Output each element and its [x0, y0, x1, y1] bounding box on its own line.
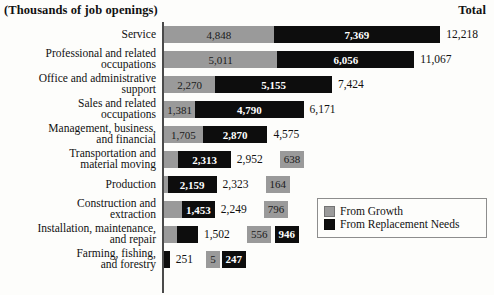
- bar-segment-growth: 1,381: [164, 101, 195, 118]
- category-label: Construction and extraction: [0, 198, 156, 222]
- bar-value-growth: 4,848: [206, 29, 231, 41]
- detached-replacement-value: 247: [222, 251, 247, 268]
- stacked-bar: 1642,159: [164, 176, 217, 193]
- row-total-value: 2,323: [223, 176, 249, 193]
- bar-value-growth: 1,381: [167, 104, 192, 116]
- detached-growth-value: 638: [280, 151, 305, 168]
- bar-row: Office and administrative support2,2705,…: [0, 72, 494, 97]
- bar-value-growth: 2,270: [177, 79, 202, 91]
- bar-segment-replacement: 946: [177, 226, 198, 243]
- bar-segment-growth: 5,011: [164, 51, 277, 68]
- total-column-header: Total: [458, 3, 486, 18]
- legend-item-growth: From Growth: [324, 205, 480, 217]
- detached-growth-value: 5: [206, 251, 220, 268]
- row-total-value: 6,171: [310, 101, 336, 118]
- detached-growth-value: 796: [264, 201, 289, 218]
- bar-value-replacement: 2,159: [180, 179, 205, 191]
- bar-value-replacement: 1,453: [186, 204, 211, 216]
- bar-value-replacement: 2,870: [223, 129, 248, 141]
- legend-label-replacement: From Replacement Needs: [340, 218, 459, 230]
- detached-growth-value: 164: [266, 176, 291, 193]
- bar-segment-replacement: 2,159: [168, 176, 217, 193]
- bar-value-replacement: 7,369: [345, 29, 370, 41]
- bar-value-growth: 1,705: [171, 129, 196, 141]
- stacked-bar: 5,0116,056: [164, 51, 414, 68]
- bar-segment-growth: 2,270: [164, 76, 215, 93]
- row-total-value: 11,067: [420, 51, 451, 68]
- bar-row: Management, business, and financial1,705…: [0, 122, 494, 147]
- category-label: Production: [0, 179, 156, 191]
- bar-row: Production1642,1592,323164: [0, 172, 494, 197]
- category-label: Office and administrative support: [0, 73, 156, 97]
- bar-segment-replacement: 1,453: [182, 201, 215, 218]
- row-total-value: 2,249: [221, 201, 247, 218]
- row-total-value: 12,218: [446, 26, 478, 43]
- stacked-bar-chart: (Thousands of job openings) Total Servic…: [0, 0, 494, 295]
- bar-segment-growth: 4,848: [164, 26, 274, 43]
- bar-segment-growth: 556: [164, 226, 177, 243]
- stacked-bar: 4,8487,369: [164, 26, 440, 43]
- stacked-bar: 7961,453: [164, 201, 215, 218]
- stacked-bar: 2,2705,155: [164, 76, 332, 93]
- stacked-bar: 1,3814,790: [164, 101, 304, 118]
- bar-value-replacement: 4,790: [237, 104, 262, 116]
- row-total-value: 251: [176, 251, 193, 268]
- bar-segment-growth: 796: [164, 201, 182, 218]
- detached-growth-value: 556: [247, 226, 272, 243]
- bar-segment-growth: 1,705: [164, 126, 203, 143]
- category-label: Professional and related occupations: [0, 48, 156, 72]
- bar-row: Farming, fishing, and forestry5247251524…: [0, 247, 494, 272]
- category-label: Sales and related occupations: [0, 98, 156, 122]
- bar-row: Professional and related occupations5,01…: [0, 47, 494, 72]
- bar-segment-replacement: 6,056: [277, 51, 414, 68]
- bar-segment-replacement: 2,870: [203, 126, 268, 143]
- bar-segment-replacement: 4,790: [195, 101, 303, 118]
- row-total-value: 4,575: [273, 126, 299, 143]
- legend-label-growth: From Growth: [340, 205, 403, 217]
- bar-segment-replacement: 247: [164, 251, 170, 268]
- bar-segment-growth: 638: [164, 151, 178, 168]
- bar-row: Sales and related occupations1,3814,7906…: [0, 97, 494, 122]
- bar-segment-replacement: 2,313: [178, 151, 230, 168]
- stacked-bar: 6382,313: [164, 151, 231, 168]
- category-label: Installation, maintenance, and repair: [0, 223, 156, 247]
- category-label: Service: [0, 29, 156, 41]
- bar-row: Service4,8487,36912,218: [0, 22, 494, 47]
- bar-value-growth: 5,011: [209, 54, 233, 66]
- bar-value-replacement: 6,056: [333, 54, 358, 66]
- bar-value-replacement: 2,313: [192, 154, 217, 166]
- stacked-bar: 556946: [164, 226, 198, 243]
- row-total-value: 1,502: [204, 226, 230, 243]
- bar-segment-replacement: 5,155: [215, 76, 332, 93]
- replacement-swatch-icon: [324, 219, 335, 230]
- chart-legend: From Growth From Replacement Needs: [317, 198, 487, 238]
- row-total-value: 2,952: [237, 151, 263, 168]
- category-label: Management, business, and financial: [0, 123, 156, 147]
- bar-row: Transportation and material moving6382,3…: [0, 147, 494, 172]
- stacked-bar: 1,7052,870: [164, 126, 267, 143]
- units-caption: (Thousands of job openings): [4, 3, 158, 18]
- detached-replacement-value: 946: [275, 226, 300, 243]
- bar-value-replacement: 5,155: [261, 79, 286, 91]
- legend-item-replacement: From Replacement Needs: [324, 218, 480, 230]
- bar-segment-replacement: 7,369: [274, 26, 441, 43]
- category-label: Transportation and material moving: [0, 148, 156, 172]
- growth-swatch-icon: [324, 206, 335, 217]
- category-label: Farming, fishing, and forestry: [0, 248, 156, 272]
- stacked-bar: 5247: [164, 251, 170, 268]
- row-total-value: 7,424: [338, 76, 364, 93]
